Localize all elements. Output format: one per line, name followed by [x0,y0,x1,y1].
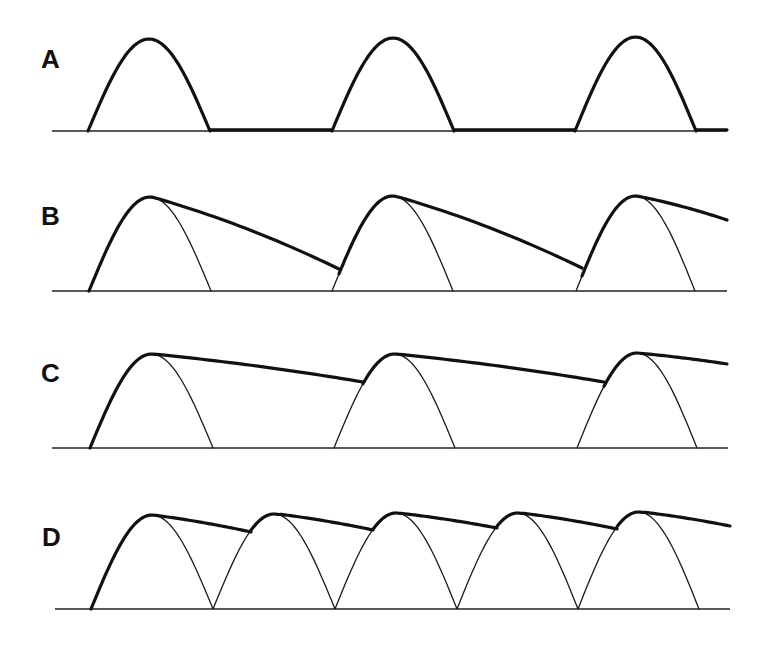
waveform-arch [576,196,695,291]
waveform-arch [91,515,213,609]
output-envelope [363,354,604,384]
panel-label-c: C [41,358,60,388]
waveform-arch [575,37,696,131]
output-envelope [251,514,373,530]
waveform-arch [457,513,578,609]
output-envelope [497,513,617,529]
waveform-arch [577,353,697,448]
panel-label-a: A [41,44,60,74]
waveform-arch [334,354,455,448]
output-envelope [373,513,497,529]
waveform-arch [90,354,213,448]
output-envelope [617,512,730,527]
output-envelope [91,515,251,609]
panel-label-b: B [41,201,60,231]
output-envelope [604,353,727,386]
output-envelope [339,196,582,274]
panel-label-d: D [42,522,61,552]
panel-c: C [41,353,728,448]
waveform-arch [578,512,699,609]
waveform-arch [88,39,210,131]
panel-a: A [41,37,727,131]
waveform-arch [332,196,453,291]
panel-d: D [42,512,730,609]
panel-b: B [41,196,727,291]
waveform-arch [332,38,454,131]
output-envelope [89,197,339,291]
rectifier-waveform-diagram: A B C D [0,0,766,649]
output-envelope [90,354,363,448]
